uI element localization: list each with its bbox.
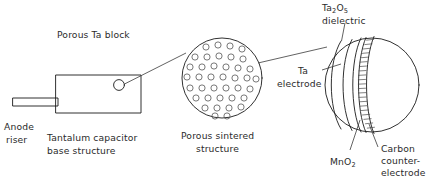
label-dielectric-word: dielectric <box>322 15 366 26</box>
porous-sintered-view <box>182 38 262 119</box>
base-block-view <box>13 75 141 113</box>
label-porous-sintered-line1: Porous sintered <box>181 130 254 141</box>
label-anode-riser-line2: riser <box>6 134 27 145</box>
formula-sub-5: 5 <box>344 7 348 15</box>
label-ta-electrode-line1: Ta <box>297 65 308 76</box>
carbon-band-inner-arc <box>359 38 367 133</box>
figure-canvas: Porous Ta block Anode riser Tantalum cap… <box>0 0 439 183</box>
label-carbon-line1: Carbon <box>381 143 415 154</box>
label-base-structure-line2: base structure <box>47 145 116 156</box>
callout-source-circle <box>114 80 125 91</box>
dielectric-inner-arc <box>343 40 352 131</box>
mno2-arc <box>353 38 361 132</box>
detail-sphere-outline <box>325 38 419 132</box>
leader-porous-to-detail <box>258 47 327 63</box>
leader-ta-electrode-label <box>322 64 341 70</box>
mno2-main: MnO <box>330 156 351 167</box>
porous-ta-block-shape <box>56 75 141 113</box>
label-base-structure-line1: Tantalum capacitor <box>46 132 138 143</box>
leader-block-to-porous <box>125 53 187 84</box>
label-porous-ta-block: Porous Ta block <box>57 29 130 40</box>
label-carbon-line2: counter- <box>381 155 420 166</box>
label-carbon-line3: electrode <box>381 167 426 178</box>
anode-riser-shape <box>13 98 58 106</box>
label-ta-electrode-line2: electrode <box>277 78 322 89</box>
label-anode-riser-line1: Anode <box>4 121 34 132</box>
tantalum-capacitor-diagram: Porous Ta block Anode riser Tantalum cap… <box>0 0 439 183</box>
label-porous-sintered-line2: structure <box>196 143 239 154</box>
pore-detail-sphere-view <box>325 37 419 134</box>
mno2-sub: 2 <box>351 161 355 169</box>
formula-ta: Ta <box>321 2 332 13</box>
label-dielectric-formula: Ta2O5 <box>321 2 348 15</box>
label-mno2: MnO2 <box>330 156 356 169</box>
leader-mno2-label <box>350 120 360 150</box>
formula-o: O <box>336 2 343 13</box>
